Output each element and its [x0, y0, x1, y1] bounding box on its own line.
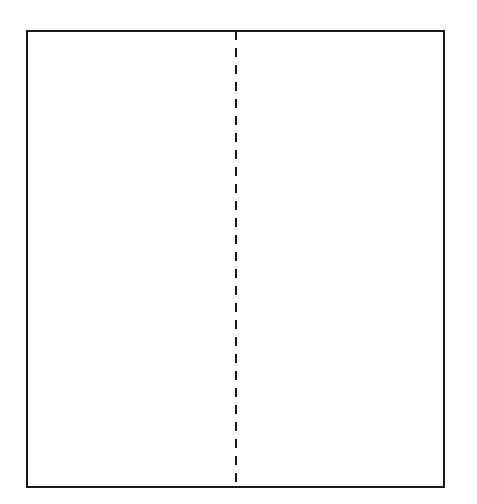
- diagram-svg: [0, 0, 477, 504]
- diagram-canvas: [0, 0, 477, 504]
